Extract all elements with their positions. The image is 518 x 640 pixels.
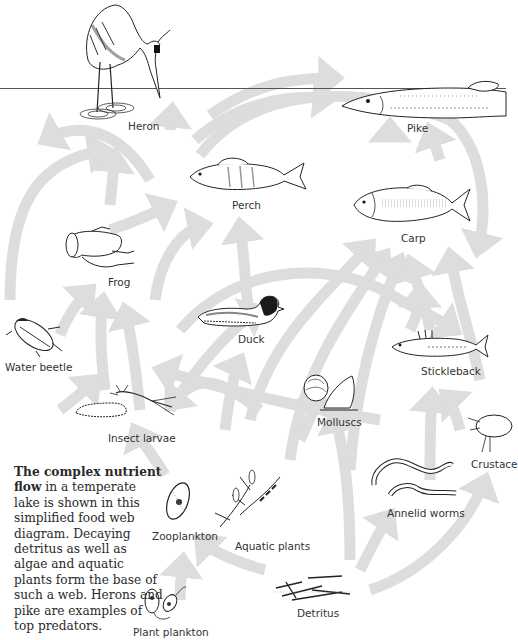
pike-illustration: [340, 78, 506, 122]
label-stickleback: Stickleback: [421, 365, 481, 377]
diagram-caption: The complex nutrient flow in a temperate…: [14, 465, 164, 634]
water-beetle-illustration: [6, 313, 66, 358]
label-heron: Heron: [128, 120, 160, 132]
label-annelid-worms: Annelid worms: [387, 507, 465, 519]
label-insect-larvae: Insect larvae: [108, 432, 176, 444]
frog-illustration: [62, 225, 140, 275]
heron-illustration: [70, 0, 180, 125]
stickleback-illustration: [390, 325, 490, 361]
annelid-worms-illustration: [370, 455, 460, 503]
crustaceans-illustration: [468, 408, 506, 454]
zooplankton-illustration: [162, 480, 194, 522]
label-aquatic-plants: Aquatic plants: [235, 540, 310, 552]
molluscs-illustration: [302, 372, 362, 416]
label-crustaceans: Crustace: [471, 458, 518, 470]
caption-body: in a temperate lake is shown in this sim…: [14, 480, 163, 633]
label-carp: Carp: [401, 232, 426, 244]
label-frog: Frog: [108, 276, 130, 288]
duck-illustration: [196, 293, 286, 331]
carp-illustration: [352, 183, 472, 225]
label-pike: Pike: [407, 122, 428, 134]
label-detritus: Detritus: [297, 607, 339, 619]
label-duck: Duck: [238, 333, 265, 345]
insect-larvae-illustration: [72, 385, 182, 419]
label-molluscs: Molluscs: [317, 416, 362, 428]
aquatic-plants-illustration: [210, 465, 290, 535]
perch-illustration: [188, 155, 308, 195]
label-perch: Perch: [232, 199, 261, 211]
detritus-illustration: [272, 568, 354, 604]
label-water-beetle: Water beetle: [5, 361, 72, 373]
